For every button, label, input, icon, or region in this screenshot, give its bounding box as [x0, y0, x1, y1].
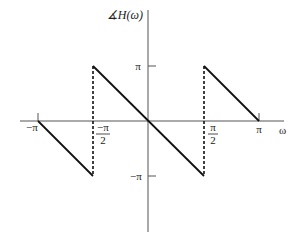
y-label-pos-pi: π	[135, 60, 141, 72]
x-label-pos-pi: π	[256, 123, 262, 135]
phase-response-chart: ∡H(ω) ω −π π −π 2 π 2 π −π	[0, 0, 296, 244]
x-label-neg-half-den: 2	[100, 134, 106, 146]
x-axis-label: ω	[279, 124, 286, 136]
x-label-pos-half-den: 2	[210, 134, 216, 146]
x-label-pos-half-num: π	[210, 121, 216, 133]
phase-segment-3	[204, 66, 259, 121]
y-axis-label: ∡H(ω)	[107, 8, 143, 22]
phase-segment-1	[38, 121, 93, 176]
y-label-neg-pi: −π	[130, 170, 142, 182]
x-label-neg-half-num: −π	[97, 121, 109, 133]
x-label-neg-pi: −π	[26, 121, 38, 133]
